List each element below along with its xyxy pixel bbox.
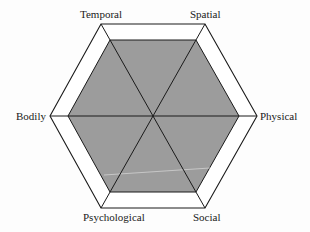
label-temporal: Temporal	[80, 9, 122, 20]
label-physical: Physical	[260, 111, 297, 122]
hexagon-diagram: Temporal Spatial Physical Social Psychol…	[0, 0, 310, 232]
label-social: Social	[193, 212, 221, 223]
label-spatial: Spatial	[190, 9, 221, 20]
label-psychological: Psychological	[83, 212, 145, 223]
label-bodily: Bodily	[16, 111, 46, 122]
